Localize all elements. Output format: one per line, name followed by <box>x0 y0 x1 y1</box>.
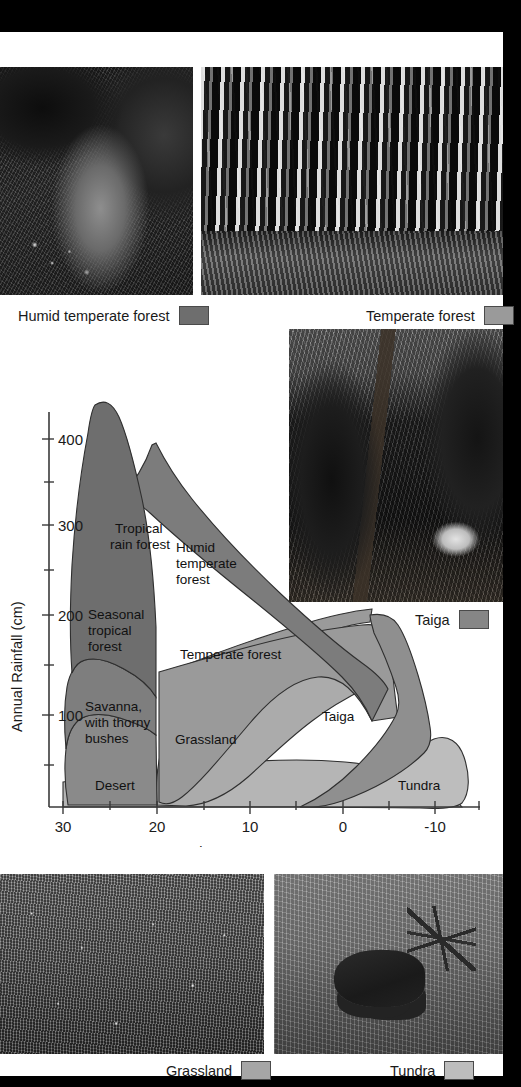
label-tundra: Tundra <box>398 778 441 793</box>
label-savanna-3: bushes <box>85 731 129 746</box>
label-humid-temperate-forest-2: temperate <box>176 556 237 571</box>
caption-humid-temperate-forest: Humid temperate forest <box>18 306 209 325</box>
y-tick-label-100: 100 <box>58 707 83 724</box>
biome-climate-chart: 400 300 200 100 <box>0 387 503 847</box>
label-tropical-rain-forest-2: rain forest <box>110 537 170 552</box>
caption-label: Temperate forest <box>366 308 475 324</box>
caption-tundra: Tundra <box>390 1061 474 1080</box>
label-humid-temperate-forest-1: Humid <box>176 540 215 555</box>
caption-grassland: Grassland <box>166 1061 271 1080</box>
page-root: Humid temperate forest Temperate forest … <box>0 0 521 1087</box>
grassland-photo <box>0 874 264 1054</box>
page-sheet: Humid temperate forest Temperate forest … <box>0 32 503 1076</box>
label-savanna-1: Savanna, <box>85 699 142 714</box>
caption-label: Humid temperate forest <box>18 308 170 324</box>
label-taiga: Taiga <box>322 709 355 724</box>
x-tick-label-30: 30 <box>55 818 72 835</box>
legend-swatch-grassland <box>241 1061 271 1080</box>
caption-label: Grassland <box>166 1063 232 1079</box>
photo-content <box>0 67 193 295</box>
label-tropical-rain-forest-1: Tropical <box>115 521 163 536</box>
x-tick-label-0: 0 <box>339 818 347 835</box>
humid-temperate-forest-photo <box>0 67 193 295</box>
caption-label: Tundra <box>390 1063 435 1079</box>
photo-content <box>0 874 264 1054</box>
legend-swatch-humid-temperate-forest <box>179 306 209 325</box>
photo-content <box>201 67 503 295</box>
x-axis-title: Average Temperatures in °C <box>49 844 231 847</box>
label-grassland: Grassland <box>175 732 237 747</box>
chart-regions <box>63 402 468 808</box>
y-tick-label-400: 400 <box>58 431 83 448</box>
label-savanna-2: with thorny <box>84 715 151 730</box>
photo-content <box>274 874 503 1054</box>
x-tick-label-20: 20 <box>149 818 166 835</box>
label-seasonal-tropical-forest-1: Seasonal <box>88 607 144 622</box>
x-tick-label--10: -10 <box>424 818 446 835</box>
label-seasonal-tropical-forest-3: forest <box>88 639 122 654</box>
label-humid-temperate-forest-3: forest <box>176 572 210 587</box>
label-desert: Desert <box>95 778 135 793</box>
temperate-forest-photo <box>201 67 503 295</box>
legend-swatch-temperate-forest <box>484 306 514 325</box>
chart-svg: 400 300 200 100 <box>0 387 503 847</box>
label-temperate-forest: Temperate forest <box>180 647 282 662</box>
label-seasonal-tropical-forest-2: tropical <box>88 623 132 638</box>
x-tick-label-10: 10 <box>242 818 259 835</box>
y-axis-title: Annual Rainfall (cm) <box>9 601 25 732</box>
caption-temperate-forest: Temperate forest <box>366 306 514 325</box>
legend-swatch-tundra <box>444 1061 474 1080</box>
y-tick-label-200: 200 <box>58 607 83 624</box>
tundra-photo <box>274 874 503 1054</box>
y-tick-label-300: 300 <box>58 517 83 534</box>
